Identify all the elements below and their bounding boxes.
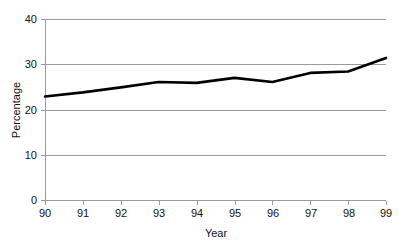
xtick-label-97: 97 xyxy=(305,207,317,219)
xtick-label-93: 93 xyxy=(153,207,165,219)
xtick-label-90: 90 xyxy=(39,207,51,219)
xtick-label-98: 98 xyxy=(343,207,355,219)
ytick-label-0: 0 xyxy=(31,194,37,206)
xtick-label-92: 92 xyxy=(115,207,127,219)
chart-canvas: 40 30 20 10 0 90 91 92 93 94 95 96 9 xyxy=(0,0,402,251)
x-axis-title: Year xyxy=(205,227,228,239)
xtick-label-91: 91 xyxy=(77,207,89,219)
xtick-label-95: 95 xyxy=(229,207,241,219)
ytick-label-10: 10 xyxy=(25,149,37,161)
xtick-label-94: 94 xyxy=(191,207,203,219)
xtick-label-96: 96 xyxy=(267,207,279,219)
xtick-label-99: 99 xyxy=(380,207,392,219)
y-axis-title: Percentage xyxy=(10,82,22,138)
ytick-label-20: 20 xyxy=(25,104,37,116)
line-chart: 40 30 20 10 0 90 91 92 93 94 95 96 9 xyxy=(0,0,402,251)
ytick-label-40: 40 xyxy=(25,13,37,25)
ytick-label-30: 30 xyxy=(25,58,37,70)
